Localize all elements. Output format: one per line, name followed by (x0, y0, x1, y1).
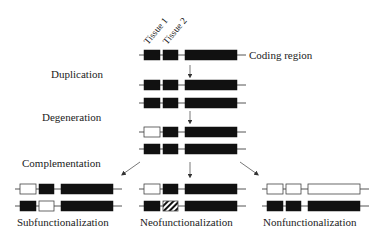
gene-neo-2 (139, 201, 246, 211)
gene-dup-1 (139, 80, 246, 90)
tissue-2-region-black (163, 50, 178, 60)
tissue-2-region-hatched (163, 201, 178, 211)
arrow-nonfunctionalization (240, 162, 257, 174)
tissue-1-region-black (144, 201, 160, 211)
tissue-2-region-black (39, 184, 54, 194)
tissue-2-region-black (163, 80, 178, 90)
gene-sub-1 (15, 184, 122, 194)
neofunctionalization-label: Neofunctionalization (140, 216, 233, 228)
tissue-2-region-white (39, 201, 54, 211)
coding-region-black (185, 184, 237, 194)
gene-sub-2 (15, 201, 122, 211)
tissue-1-region-white (267, 184, 283, 194)
coding-region-black (185, 98, 237, 108)
gene-original (139, 50, 246, 60)
tissue-2-region-black (163, 127, 178, 137)
gene-dup-2 (139, 98, 246, 108)
coding-region-black (185, 201, 237, 211)
gene-neo-1 (139, 184, 246, 194)
tissue-1-region-black (267, 201, 283, 211)
coding-region-black (185, 80, 237, 90)
tissue-1-region-black (144, 144, 160, 154)
tissue-1-region-white (144, 127, 160, 137)
gene-deg-2 (139, 144, 246, 154)
tissue-2-region-black (163, 144, 178, 154)
tissue-1-region-white (144, 184, 160, 194)
arrow-subfunctionalization (123, 162, 140, 174)
gene-non-1 (262, 184, 369, 194)
tissue-2-region-black (163, 98, 178, 108)
tissue-1-region-black (144, 98, 160, 108)
coding-region-black (308, 201, 360, 211)
tissue-2-region-black (163, 184, 178, 194)
subfunctionalization-label: Subfunctionalization (17, 216, 109, 228)
tissue-1-region-white (20, 184, 36, 194)
degeneration-label: Degeneration (42, 111, 102, 123)
gene-non-2 (262, 201, 369, 211)
complementation-label: Complementation (22, 157, 101, 169)
tissue-2-region-white (286, 184, 301, 194)
nonfunctionalization-label: Nonfunctionalization (263, 216, 357, 228)
coding-region-black (185, 127, 237, 137)
coding-region-black (185, 50, 237, 60)
coding-region-black (61, 201, 113, 211)
coding-region-label: Coding region (249, 49, 313, 61)
tissue-1-region-black (20, 201, 36, 211)
tissue-1-region-black (144, 80, 160, 90)
tissue-1-region-black (144, 50, 160, 60)
gene-deg-1 (139, 127, 246, 137)
duplication-label: Duplication (51, 68, 103, 80)
coding-region-black (185, 144, 237, 154)
coding-region-black (61, 184, 113, 194)
coding-region-white (308, 184, 360, 194)
tissue-2-region-black (286, 201, 301, 211)
gene-duplication-diagram: Tissue 1 Tissue 2 Coding region Duplicat… (0, 0, 380, 239)
